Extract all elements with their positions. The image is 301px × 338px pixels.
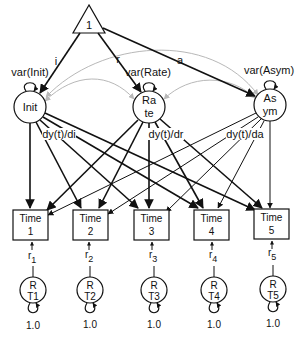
variance-loop-icon — [143, 83, 154, 91]
residual-rt1: R T1 1.0 — [20, 277, 46, 331]
svg-text:1.0: 1.0 — [207, 319, 221, 330]
svg-text:T5: T5 — [267, 290, 279, 301]
svg-text:Time: Time — [201, 213, 223, 224]
svg-text:R: R — [29, 280, 36, 291]
svg-text:2: 2 — [88, 226, 94, 237]
svg-text:1: 1 — [28, 226, 34, 237]
svg-text:1.0: 1.0 — [83, 319, 97, 330]
svg-text:R: R — [269, 279, 276, 290]
loading-label-rate: dy(t)/dr — [149, 128, 184, 140]
svg-text:te: te — [144, 107, 153, 119]
observed-time-4: Time 4 — [194, 210, 229, 240]
covariance-init-rate — [45, 79, 134, 101]
latent-init: var(Init) Init — [11, 66, 48, 123]
observed-time-2: Time 2 — [73, 210, 108, 240]
path-label-r: r — [116, 53, 120, 65]
variance-loop-icon — [24, 83, 35, 91]
svg-text:R: R — [210, 280, 217, 291]
svg-text:Ra: Ra — [142, 94, 157, 106]
variance-loop-icon — [85, 303, 95, 313]
variance-loop-icon — [209, 303, 219, 313]
r-label-1: r1 — [28, 250, 36, 265]
svg-text:1.0: 1.0 — [266, 318, 280, 329]
svg-text:Init: Init — [23, 101, 38, 113]
svg-text:T2: T2 — [84, 291, 96, 302]
residual-rt5: R T5 1.0 — [260, 276, 286, 329]
svg-text:3: 3 — [149, 226, 155, 237]
svg-text:1: 1 — [86, 19, 92, 31]
loading-label-asym: dy(t)/da — [226, 128, 264, 140]
r-label-5: r5 — [268, 247, 276, 262]
path-label-i: i — [55, 55, 57, 67]
svg-text:As: As — [264, 92, 277, 104]
variance-label-rate: var(Rate) — [125, 66, 171, 78]
r-label-2: r2 — [85, 249, 93, 264]
svg-text:T4: T4 — [208, 291, 220, 302]
residual-path-labels: r1 r2 r3 r4 r5 — [28, 247, 276, 265]
latent-asym: var(Asym) As ym — [244, 64, 294, 121]
svg-text:Time: Time — [80, 213, 102, 224]
svg-text:Time: Time — [20, 213, 42, 224]
residual-rt3: R T3 1.0 — [141, 277, 167, 330]
mean-paths — [40, 28, 255, 96]
variance-loop-icon — [268, 302, 278, 312]
variance-loop-icon — [264, 81, 275, 89]
path-label-a: a — [177, 54, 184, 66]
variance-loop-icon — [149, 303, 159, 313]
svg-text:ym: ym — [263, 105, 278, 117]
svg-text:5: 5 — [269, 225, 275, 236]
residual-rt2: R T2 1.0 — [77, 277, 103, 330]
observed-time-1: Time 1 — [13, 210, 48, 240]
loading-labels: dy(t)/di dy(t)/dr dy(t)/da — [42, 128, 265, 140]
loading-label-init: dy(t)/di — [42, 128, 76, 140]
latent-rate: var(Rate) Ra te — [125, 66, 171, 123]
svg-text:T1: T1 — [27, 291, 39, 302]
svg-text:R: R — [86, 280, 93, 291]
svg-text:Time: Time — [261, 212, 283, 223]
variance-label-init: var(Init) — [11, 66, 48, 78]
svg-text:4: 4 — [209, 226, 215, 237]
variance-loop-icon — [28, 303, 38, 313]
sem-path-diagram: 1 i r a dy(t)/di dy(t)/dr dy(t)/ — [0, 0, 301, 338]
variance-label-asym: var(Asym) — [244, 64, 294, 76]
observed-time-3: Time 3 — [134, 210, 169, 240]
residual-rt4: R T4 1.0 — [201, 277, 227, 330]
r-label-4: r4 — [209, 249, 217, 264]
svg-text:R: R — [150, 280, 157, 291]
r-label-3: r3 — [149, 249, 157, 264]
svg-text:T3: T3 — [148, 291, 160, 302]
observed-time-5: Time 5 — [254, 209, 289, 239]
svg-text:Time: Time — [141, 213, 163, 224]
svg-text:1.0: 1.0 — [26, 320, 40, 331]
constant-node: 1 — [73, 5, 105, 33]
svg-text:1.0: 1.0 — [147, 319, 161, 330]
